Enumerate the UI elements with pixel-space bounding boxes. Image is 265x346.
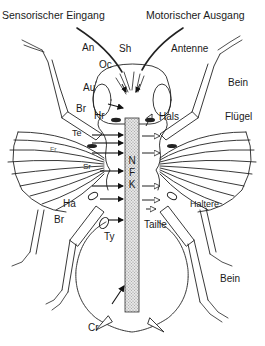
label-te: Te [72,128,82,139]
label-taille: Taille [144,219,167,230]
label-ha: Ha [63,198,76,209]
label-ty: Ty [104,231,115,242]
label-antenne: Antenne [171,43,208,54]
label-sh: Sh [119,43,131,54]
label-au: Au [83,82,95,93]
motor-arrows [142,114,160,209]
label-br-lower: Br [54,214,64,225]
cercus-right [148,318,164,332]
sensory-arrows [92,104,124,304]
insect-neural-diagram: Sensorischer Eingang Motorischer Ausgang… [0,0,265,346]
label-hr: Hr [94,110,105,121]
cord-letter-k: K [125,180,139,190]
label-an: An [82,42,94,53]
label-oc: Oc [99,59,112,70]
nerve-cord [125,118,139,312]
cord-letter-f: F [125,168,139,178]
label-sr: Sr [83,161,91,172]
label-bein-upper: Bein [228,77,248,88]
header-sensory-input: Sensorischer Eingang [2,10,105,21]
label-hals: Hals [159,111,179,122]
label-fluegel: Flügel [225,111,252,122]
label-cr: Cr [88,322,99,333]
label-haltere: Haltere [190,199,219,210]
label-bein-lower: Bein [220,273,240,284]
label-br-upper: Br [76,103,86,114]
haltere-right [166,191,178,201]
haltere-left [87,191,99,201]
label-fr: Fr [50,144,57,155]
header-motor-output: Motorischer Ausgang [146,10,245,21]
cord-letter-n: N [125,156,139,166]
